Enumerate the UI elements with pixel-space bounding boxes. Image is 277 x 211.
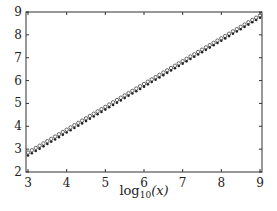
x-tick-label: 5 (102, 176, 110, 190)
data-point-open (57, 133, 60, 136)
data-point-open (73, 123, 76, 126)
data-point-open (96, 110, 99, 113)
data-point-open (154, 75, 157, 78)
data-point-open (158, 73, 161, 76)
data-point-open (135, 87, 138, 90)
data-point-open (150, 78, 153, 81)
data-point-open (108, 103, 111, 106)
data-point-filled (62, 134, 65, 137)
data-point-open (69, 126, 72, 129)
data-point-filled (50, 140, 53, 143)
data-point-open (88, 114, 91, 117)
data-point-filled (85, 120, 88, 123)
data-point-filled (255, 19, 258, 22)
data-point-filled (247, 23, 250, 26)
data-point-open (65, 128, 68, 131)
data-point-filled (216, 42, 219, 45)
data-point-filled (185, 60, 188, 63)
data-point-open (115, 98, 118, 101)
data-point-filled (236, 30, 239, 33)
data-point-open (77, 121, 80, 124)
x-tick-label: 8 (218, 176, 226, 190)
data-point-open (173, 64, 176, 67)
data-point-filled (166, 72, 169, 75)
y-tick-label: 2 (14, 165, 22, 179)
data-point-filled (158, 76, 161, 79)
data-point-filled (104, 108, 107, 111)
data-point-filled (131, 92, 134, 95)
data-point-open (104, 105, 107, 108)
data-point-open (30, 149, 33, 152)
x-tick-label: 6 (140, 176, 148, 190)
data-point-filled (46, 143, 49, 146)
data-point-filled (181, 62, 184, 65)
data-point-filled (251, 21, 254, 24)
data-point-filled (178, 65, 181, 68)
data-point-open (181, 59, 184, 62)
data-point-filled (143, 85, 146, 88)
data-point-filled (27, 154, 30, 157)
data-point-filled (197, 53, 200, 56)
data-point-open (46, 139, 49, 142)
data-point-filled (42, 145, 45, 148)
data-point-filled (220, 39, 223, 42)
scatter-chart: 345678923456789log10(x) (0, 0, 277, 211)
data-point-filled (208, 46, 211, 49)
data-point-open (61, 130, 64, 133)
data-point-filled (89, 117, 92, 120)
data-point-filled (123, 97, 126, 100)
data-point-open (166, 69, 169, 72)
data-point-open (185, 57, 188, 60)
data-point-filled (150, 81, 153, 84)
data-point-open (100, 107, 103, 110)
data-point-filled (96, 113, 99, 116)
data-point-open (142, 82, 145, 85)
data-point-open (177, 62, 180, 65)
data-point-open (50, 137, 53, 140)
data-point-filled (174, 67, 177, 70)
data-point-filled (243, 26, 246, 29)
data-point-open (92, 112, 95, 115)
data-point-filled (65, 131, 68, 134)
data-point-filled (112, 104, 115, 107)
y-tick-label: 4 (14, 119, 22, 133)
data-point-filled (212, 44, 215, 47)
data-point-open (138, 85, 141, 88)
data-point-filled (239, 28, 242, 31)
data-point-filled (170, 69, 173, 72)
data-point-open (111, 101, 114, 104)
y-tick-label: 6 (14, 74, 22, 88)
x-tick-label: 3 (24, 176, 32, 190)
data-point-filled (73, 127, 76, 130)
y-tick-label: 3 (14, 142, 22, 156)
x-tick-label: 7 (179, 176, 187, 190)
data-point-open (38, 144, 41, 147)
y-tick-label: 7 (14, 51, 22, 65)
data-point-open (123, 94, 126, 97)
data-point-filled (31, 152, 34, 155)
data-point-filled (228, 35, 231, 38)
data-point-filled (224, 37, 227, 40)
x-tick-label: 4 (63, 176, 71, 190)
data-point-filled (92, 115, 95, 118)
data-point-open (80, 119, 83, 122)
data-point-filled (205, 49, 208, 52)
x-tick-label: 9 (256, 176, 264, 190)
data-point-filled (135, 90, 138, 93)
data-point-filled (81, 122, 84, 125)
data-point-open (84, 117, 87, 120)
data-point-open (146, 80, 149, 83)
data-point-filled (189, 58, 192, 61)
data-point-filled (69, 129, 72, 132)
data-point-open (53, 135, 56, 138)
data-point-open (162, 71, 165, 74)
data-point-filled (154, 78, 157, 81)
data-point-filled (58, 136, 61, 139)
data-point-open (169, 66, 172, 69)
data-point-filled (116, 101, 119, 104)
data-point-filled (77, 124, 80, 127)
data-point-filled (120, 99, 123, 102)
data-point-open (42, 142, 45, 145)
data-point-filled (54, 138, 57, 141)
y-tick-label: 9 (14, 5, 22, 19)
